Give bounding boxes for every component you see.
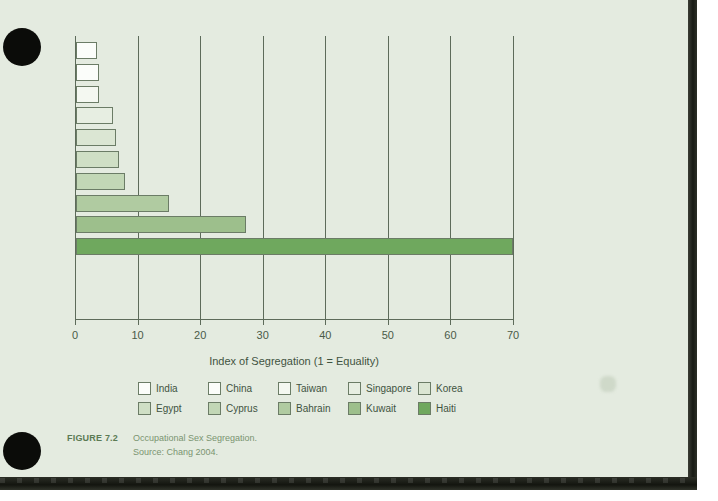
legend-item-korea: Korea	[418, 382, 488, 395]
legend-label-cyprus: Cyprus	[226, 403, 258, 414]
x-tick-label-50: 50	[382, 329, 394, 341]
scanned-page: 010203040506070 Index of Segregation (1 …	[0, 0, 718, 501]
legend-swatch-taiwan	[278, 382, 291, 395]
legend-swatch-haiti	[418, 402, 431, 415]
legend-label-korea: Korea	[436, 383, 463, 394]
page-edge-bottom	[0, 477, 697, 490]
x-tick-20	[200, 319, 201, 325]
caption-title-line: FIGURE 7.2 Occupational Sex Segregation.	[67, 431, 487, 445]
x-tick-label-10: 10	[131, 329, 143, 341]
legend-swatch-singapore	[348, 382, 361, 395]
x-tick-10	[138, 319, 139, 325]
bar-chart-plot-area	[75, 36, 513, 319]
legend-row-1: IndiaChinaTaiwanSingaporeKorea	[138, 379, 488, 397]
x-tick-label-20: 20	[194, 329, 206, 341]
legend-label-haiti: Haiti	[436, 403, 456, 414]
scan-artifact	[600, 376, 616, 392]
legend-swatch-cyprus	[208, 402, 221, 415]
legend-label-singapore: Singapore	[366, 383, 412, 394]
x-tick-0	[75, 319, 76, 325]
x-tick-70	[513, 319, 514, 325]
x-tick-40	[325, 319, 326, 325]
x-tick-label-0: 0	[72, 329, 78, 341]
bar-taiwan	[76, 86, 99, 103]
x-tick-label-70: 70	[507, 329, 519, 341]
legend-swatch-china	[208, 382, 221, 395]
bar-cyprus	[76, 173, 125, 190]
legend-label-china: China	[226, 383, 252, 394]
x-tick-60	[450, 319, 451, 325]
legend-item-cyprus: Cyprus	[208, 402, 278, 415]
bar-singapore	[76, 107, 113, 124]
bar-china	[76, 64, 99, 81]
legend-swatch-bahrain	[278, 402, 291, 415]
bar-india	[76, 42, 97, 59]
bar-egypt	[76, 151, 119, 168]
figure-number: FIGURE 7.2	[67, 431, 133, 445]
caption-source-line: Source: Chang 2004.	[67, 445, 487, 459]
bars-group	[76, 36, 514, 319]
x-tick-50	[388, 319, 389, 325]
legend-item-singapore: Singapore	[348, 382, 418, 395]
x-tick-30	[263, 319, 264, 325]
legend-item-taiwan: Taiwan	[278, 382, 348, 395]
legend-label-egypt: Egypt	[156, 403, 182, 414]
legend-item-kuwait: Kuwait	[348, 402, 418, 415]
legend-swatch-kuwait	[348, 402, 361, 415]
legend-item-egypt: Egypt	[138, 402, 208, 415]
x-axis-title: Index of Segregation (1 = Equality)	[75, 355, 513, 367]
legend-swatch-india	[138, 382, 151, 395]
x-tick-label-60: 60	[444, 329, 456, 341]
bar-haiti	[76, 238, 513, 255]
bar-korea	[76, 129, 116, 146]
binder-hole-bottom-icon	[3, 432, 41, 470]
figure-title: Occupational Sex Segregation.	[133, 431, 257, 445]
legend-label-bahrain: Bahrain	[296, 403, 330, 414]
legend-item-bahrain: Bahrain	[278, 402, 348, 415]
legend-item-india: India	[138, 382, 208, 395]
page-edge-right	[688, 0, 697, 489]
legend-item-haiti: Haiti	[418, 402, 488, 415]
bar-kuwait	[76, 216, 246, 233]
figure-source: Source: Chang 2004.	[133, 445, 218, 459]
chart-legend: IndiaChinaTaiwanSingaporeKoreaEgyptCypru…	[138, 379, 488, 419]
x-axis-line	[75, 319, 514, 320]
x-tick-label-40: 40	[319, 329, 331, 341]
legend-swatch-egypt	[138, 402, 151, 415]
figure-container: 010203040506070 Index of Segregation (1 …	[0, 0, 694, 482]
figure-caption: FIGURE 7.2 Occupational Sex Segregation.…	[67, 431, 487, 459]
binder-hole-top-icon	[3, 28, 41, 66]
legend-label-india: India	[156, 383, 178, 394]
bar-bahrain	[76, 195, 169, 212]
legend-label-taiwan: Taiwan	[296, 383, 327, 394]
x-tick-label-30: 30	[257, 329, 269, 341]
legend-item-china: China	[208, 382, 278, 395]
legend-swatch-korea	[418, 382, 431, 395]
legend-row-2: EgyptCyprusBahrainKuwaitHaiti	[138, 399, 488, 417]
legend-label-kuwait: Kuwait	[366, 403, 396, 414]
